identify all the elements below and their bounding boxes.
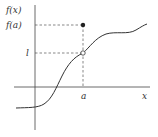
fa-label: f(a) (5, 20, 22, 30)
function-graph: f(x) f(a) l a x (0, 0, 158, 137)
a-label: a (81, 91, 86, 101)
filled-point-fa (81, 23, 85, 27)
limit-label: l (26, 48, 29, 58)
y-axis-label: f(x) (5, 5, 22, 15)
open-point-limit (81, 51, 85, 55)
x-axis-label: x (142, 91, 147, 101)
